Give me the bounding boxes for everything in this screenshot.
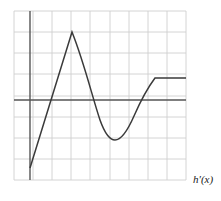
- graph-figure: h′(x): [0, 0, 221, 201]
- plot-area: h′(x): [0, 0, 221, 201]
- grid-horizontal-lines: [14, 11, 186, 180]
- axes: [14, 11, 186, 180]
- grid-lines: [14, 11, 186, 180]
- grid-vertical-lines: [14, 11, 186, 180]
- function-label: h′(x): [193, 173, 213, 186]
